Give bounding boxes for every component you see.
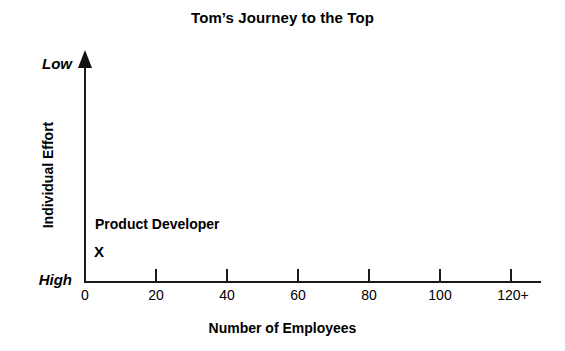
x-axis-tick [155, 269, 157, 282]
chart-container: Tom’s Journey to the Top 0 20 40 60 80 1… [0, 0, 565, 351]
y-axis-title: Individual Effort [40, 90, 56, 260]
x-axis-title: Number of Employees [0, 320, 565, 336]
x-axis-tick-label: 60 [290, 287, 306, 303]
data-point-marker-product-developer: X [94, 243, 104, 260]
x-axis-tick [297, 269, 299, 282]
x-axis-tick-label: 0 [81, 287, 89, 303]
plot-area: 0 20 40 60 80 100 120+ Low High Individu… [0, 0, 565, 351]
y-axis-arrow-icon [78, 50, 92, 68]
data-point-label-product-developer: Product Developer [95, 216, 219, 232]
x-axis-line [84, 281, 541, 283]
x-axis-tick [510, 269, 512, 282]
x-axis-tick-label: 100 [428, 287, 451, 303]
y-axis-line [84, 66, 86, 283]
x-axis-tick-label: 80 [361, 287, 377, 303]
y-axis-bottom-label: High [10, 271, 72, 288]
x-axis-tick-label: 20 [148, 287, 164, 303]
x-axis-tick-label: 40 [219, 287, 235, 303]
x-axis-tick [84, 269, 86, 282]
x-axis-tick-label: 120+ [497, 287, 529, 303]
x-axis-tick [226, 269, 228, 282]
x-axis-tick [368, 269, 370, 282]
y-axis-top-label: Low [18, 55, 72, 72]
x-axis-tick [439, 269, 441, 282]
